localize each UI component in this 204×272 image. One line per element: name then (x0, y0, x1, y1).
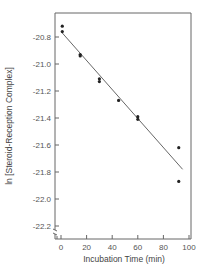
data-point (177, 146, 180, 149)
x-tick-label: 20 (82, 243, 91, 252)
y-tick-label: -21.8 (33, 168, 52, 177)
x-axis-label: Incubation Time (min) (83, 254, 165, 264)
chart: -20.8-21.0-21.2-21.4-21.6-21.8-22.0-22.2… (0, 0, 204, 272)
plot-frame (53, 13, 191, 239)
y-axis-label: ln [Steroid-Reception Complex] (4, 67, 14, 185)
data-point (61, 30, 64, 33)
data-points (61, 25, 181, 183)
y-tick-label: -21.0 (33, 60, 52, 69)
x-tick-label: 40 (108, 243, 117, 252)
x-tick-label: 0 (59, 243, 64, 252)
x-tick-label: 80 (159, 243, 168, 252)
y-tick-label: -22.0 (33, 195, 52, 204)
data-point (177, 180, 180, 183)
y-tick-label: -21.4 (33, 114, 52, 123)
data-point (136, 118, 139, 121)
y-tick-label: -21.6 (33, 141, 52, 150)
data-point (98, 80, 101, 83)
y-tick-label: -21.2 (33, 87, 52, 96)
x-axis-ticks: 020406080100 (57, 235, 196, 252)
x-tick-label: 100 (182, 243, 196, 252)
data-point (79, 54, 82, 57)
x-tick-label: 60 (133, 243, 142, 252)
data-point (117, 99, 120, 102)
data-point (61, 25, 64, 28)
y-tick-label: -20.8 (33, 33, 52, 42)
y-tick-label: -22.2 (33, 222, 52, 231)
